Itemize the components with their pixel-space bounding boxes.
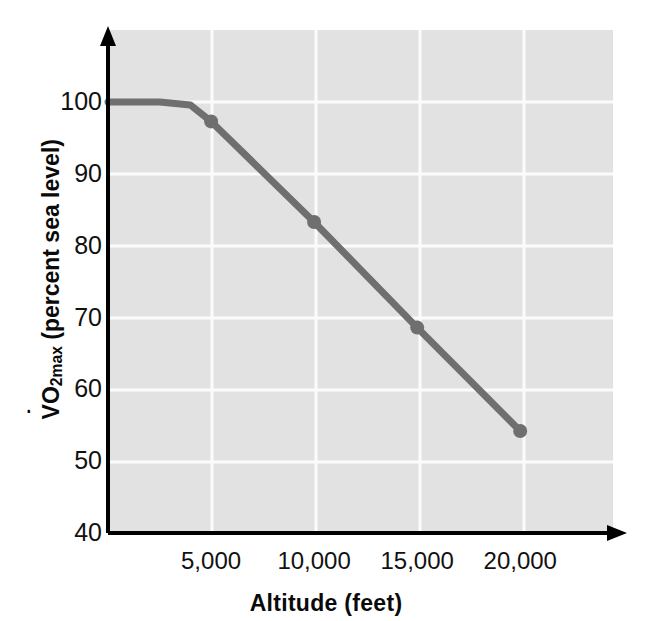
y-axis-title-rest: (percent sea level) xyxy=(38,139,64,346)
x-tick-label-5000: 5,000 xyxy=(181,549,241,573)
y-axis-title-o: O xyxy=(38,386,64,404)
y-axis-title: VO2max (percent sea level) xyxy=(38,79,66,479)
x-axis-tick-labels: 5,00010,00015,00020,000 xyxy=(0,0,652,621)
x-tick-label-20000: 20,000 xyxy=(484,549,557,573)
x-axis-title: Altitude (feet) xyxy=(0,590,652,617)
y-axis-title-v: V xyxy=(38,404,65,419)
x-tick-label-10000: 10,000 xyxy=(277,549,350,573)
x-tick-label-15000: 15,000 xyxy=(380,549,453,573)
y-axis-title-subscript: 2max xyxy=(48,346,65,386)
chart-figure: 405060708090100 5,00010,00015,00020,000 … xyxy=(0,0,652,621)
